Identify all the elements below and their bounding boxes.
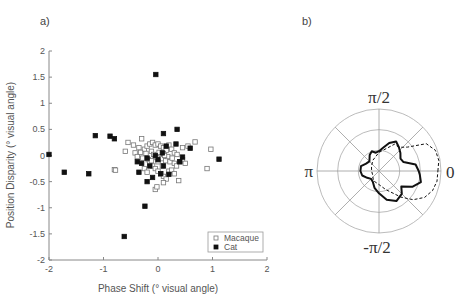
polar-angle-labels: π/2-π/2π0 [304, 88, 454, 257]
angle-label-pi: π [304, 162, 313, 181]
angle-label-neg-pi-half: -π/2 [363, 238, 390, 257]
angle-label-zero: 0 [446, 163, 455, 182]
angle-label-pi-half: π/2 [368, 88, 390, 107]
polar-plot: π/2-π/2π0 [0, 0, 468, 300]
polar-grid [317, 109, 441, 233]
figure: a) b) -2-101221.510.50-0.5-1-1.5-2 Macaq… [0, 0, 468, 300]
